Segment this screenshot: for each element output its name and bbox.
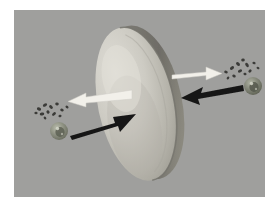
scene-svg — [14, 10, 265, 197]
left-particle-sphere — [50, 122, 68, 140]
figure-root: Membrane-mediated particle transport dia… — [0, 0, 275, 210]
illustration-panel — [14, 10, 265, 197]
right-particle-sphere — [244, 77, 262, 95]
